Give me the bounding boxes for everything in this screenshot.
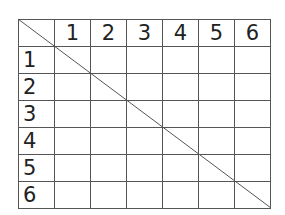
grid-cell <box>163 101 199 128</box>
grid-cell <box>91 101 127 128</box>
grid-cell <box>199 74 235 101</box>
column-header: 3 <box>127 20 163 47</box>
grid-cell <box>199 128 235 155</box>
grid-cell <box>199 182 235 209</box>
grid-cell <box>127 155 163 182</box>
row-header: 1 <box>19 47 55 74</box>
grid-cell <box>235 182 271 209</box>
grid-row: 6 <box>19 182 271 209</box>
grid-cell <box>55 155 91 182</box>
grid-cell <box>235 155 271 182</box>
grid-cell <box>163 155 199 182</box>
grid-cell <box>55 101 91 128</box>
grid-cell <box>235 101 271 128</box>
grid-row: 5 <box>19 155 271 182</box>
grid-cell <box>91 182 127 209</box>
grid-row: 2 <box>19 74 271 101</box>
grid-cell <box>127 101 163 128</box>
column-header: 2 <box>91 20 127 47</box>
grid-cell <box>199 47 235 74</box>
grid-cell <box>55 47 91 74</box>
grid-cell <box>199 101 235 128</box>
grid-cell <box>55 74 91 101</box>
row-header: 3 <box>19 101 55 128</box>
grid-row: 3 <box>19 101 271 128</box>
corner-cell <box>19 20 55 47</box>
grid-cell <box>127 182 163 209</box>
grid-cell <box>55 128 91 155</box>
row-header: 5 <box>19 155 55 182</box>
grid-cell <box>235 74 271 101</box>
column-header: 6 <box>235 20 271 47</box>
row-header: 6 <box>19 182 55 209</box>
grid-cell <box>199 155 235 182</box>
grid-cell <box>163 128 199 155</box>
grid-cell <box>91 47 127 74</box>
column-header: 5 <box>199 20 235 47</box>
grid-cell <box>127 74 163 101</box>
column-header: 4 <box>163 20 199 47</box>
header-row: 1 2 3 4 5 6 <box>19 20 271 47</box>
grid-cell <box>163 74 199 101</box>
grid-cell <box>91 74 127 101</box>
grid-cell <box>163 47 199 74</box>
grid-cell <box>55 182 91 209</box>
grid-cell <box>127 47 163 74</box>
grid-cell <box>127 128 163 155</box>
grid-cell <box>235 47 271 74</box>
grid-row: 1 <box>19 47 271 74</box>
grid-cell <box>91 128 127 155</box>
grid-cell <box>235 128 271 155</box>
row-header: 4 <box>19 128 55 155</box>
grid-cell <box>91 155 127 182</box>
number-grid: 1 2 3 4 5 6 1 2 3 4 <box>18 19 271 209</box>
column-header: 1 <box>55 20 91 47</box>
grid-row: 4 <box>19 128 271 155</box>
row-header: 2 <box>19 74 55 101</box>
grid-cell <box>163 182 199 209</box>
